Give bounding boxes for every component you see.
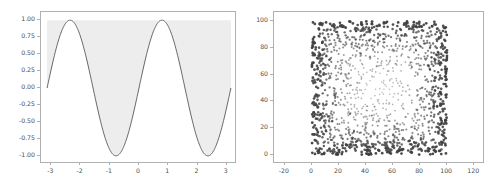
- y-tick-label: 100: [256, 17, 268, 23]
- x-tick-label: 120: [467, 168, 479, 174]
- y-tick-label: 20: [260, 124, 268, 130]
- x-tick-label: -20: [279, 168, 289, 174]
- y-tick-label: 1.00: [21, 16, 35, 22]
- x-tick-mark: [419, 163, 420, 165]
- y-tick-label: 60: [260, 71, 268, 77]
- figure-canvas: 1.000.750.500.250.00-0.25-0.50-0.75-1.00…: [0, 0, 497, 189]
- y-tick-mark: [270, 47, 272, 48]
- y-tick-label: 0.00: [21, 84, 35, 90]
- x-tick-mark: [392, 163, 393, 165]
- y-tick-mark: [37, 53, 39, 54]
- sine-curve-plot: [41, 12, 236, 163]
- x-tick-mark: [473, 163, 474, 165]
- y-tick-mark: [270, 100, 272, 101]
- left-plot-frame: [40, 11, 236, 163]
- x-tick-label: -1: [106, 168, 112, 174]
- y-tick-mark: [37, 104, 39, 105]
- x-tick-label: 0: [136, 168, 140, 174]
- x-tick-mark: [284, 163, 285, 165]
- x-tick-label: 60: [388, 168, 396, 174]
- x-tick-mark: [365, 163, 366, 165]
- x-tick-mark: [50, 163, 51, 165]
- y-tick-label: 40: [260, 97, 268, 103]
- y-tick-label: -1.00: [19, 152, 35, 158]
- right-chart-axes: 020406080100 -20020406080100120: [273, 11, 484, 163]
- x-tick-label: -3: [47, 168, 53, 174]
- x-tick-label: 0: [309, 168, 313, 174]
- x-tick-label: 40: [361, 168, 369, 174]
- x-tick-label: 3: [224, 168, 228, 174]
- y-tick-mark: [37, 36, 39, 37]
- x-tick-label: 2: [195, 168, 199, 174]
- x-tick-mark: [197, 163, 198, 165]
- y-tick-mark: [37, 155, 39, 156]
- y-tick-mark: [37, 121, 39, 122]
- y-tick-mark: [270, 154, 272, 155]
- y-tick-label: -0.25: [19, 101, 35, 107]
- x-tick-label: 20: [334, 168, 342, 174]
- x-tick-mark: [109, 163, 110, 165]
- y-tick-label: -0.75: [19, 135, 35, 141]
- x-tick-label: 100: [440, 168, 452, 174]
- left-chart-axes: 1.000.750.500.250.00-0.25-0.50-0.75-1.00…: [40, 11, 236, 163]
- y-tick-mark: [37, 70, 39, 71]
- x-tick-label: 80: [415, 168, 423, 174]
- scatter-point-group: [311, 20, 449, 156]
- y-tick-label: 0: [264, 151, 268, 157]
- x-tick-mark: [138, 163, 139, 165]
- x-tick-label: 1: [165, 168, 169, 174]
- x-tick-mark: [167, 163, 168, 165]
- y-tick-mark: [270, 127, 272, 128]
- x-tick-label: -2: [76, 168, 82, 174]
- y-tick-mark: [37, 19, 39, 20]
- x-tick-mark: [446, 163, 447, 165]
- x-tick-mark: [311, 163, 312, 165]
- y-tick-mark: [270, 74, 272, 75]
- y-tick-mark: [37, 138, 39, 139]
- x-tick-mark: [338, 163, 339, 165]
- y-tick-label: 80: [260, 44, 268, 50]
- y-tick-label: -0.50: [19, 118, 35, 124]
- x-tick-mark: [226, 163, 227, 165]
- y-tick-label: 0.50: [21, 50, 35, 56]
- y-tick-label: 0.25: [21, 67, 35, 73]
- y-tick-mark: [270, 20, 272, 21]
- y-tick-label: 0.75: [21, 33, 35, 39]
- y-tick-mark: [37, 87, 39, 88]
- x-tick-mark: [79, 163, 80, 165]
- right-plot-frame: [273, 11, 484, 163]
- scatter-points-plot: [274, 12, 484, 163]
